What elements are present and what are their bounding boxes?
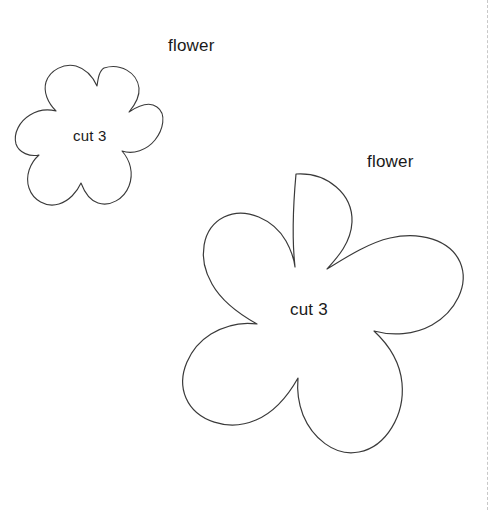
pattern-sheet: flower cut 3 flower cut 3 xyxy=(0,0,502,510)
flower-large-quantity: cut 3 xyxy=(290,300,328,320)
fold-guide-line xyxy=(487,0,488,510)
flower-small-title: flower xyxy=(168,36,215,56)
flower-small-quantity: cut 3 xyxy=(73,127,107,144)
pattern-drawing-canvas xyxy=(0,0,502,510)
flower-large-title: flower xyxy=(367,152,414,172)
